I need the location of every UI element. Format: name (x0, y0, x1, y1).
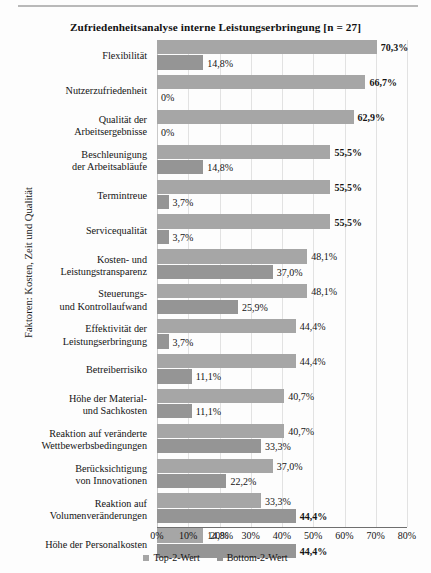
bar-top2[interactable] (157, 180, 330, 194)
legend-item[interactable]: Top-2-Wert (143, 552, 199, 563)
bar-group-bottom2: 0% (157, 90, 407, 104)
bar-top2[interactable] (157, 389, 284, 403)
bar-bottom2[interactable] (157, 300, 238, 314)
bar-top2[interactable] (157, 249, 307, 263)
bar-row: 48,1%25,9% (157, 284, 407, 317)
category-label-line: der Arbeitsabläufe (72, 161, 147, 173)
bar-bottom2[interactable] (157, 265, 273, 279)
bar-value-label: 33,3% (261, 441, 291, 452)
bar-bottom2[interactable] (157, 474, 226, 488)
category-label-line: Reaktion auf veränderte (49, 428, 147, 440)
bar-row: 44,4%11,1% (157, 354, 407, 387)
category-label: Reaktion auf veränderteWettbewerbsbeding… (18, 424, 152, 457)
bar-row: 55,5%14,8% (157, 145, 407, 178)
bar-row: 44,4%3,7% (157, 319, 407, 352)
page-top-rule (18, 5, 418, 7)
category-label: Höhe der Material-und Sachkosten (18, 389, 152, 422)
x-tick-label: 30% (242, 530, 260, 541)
bar-group-top2: 62,9% (157, 110, 407, 124)
bar-group-bottom2: 11,1% (157, 404, 407, 418)
bar-top2[interactable] (157, 424, 284, 438)
category-label-line: Qualität der (99, 114, 147, 126)
bar-group-top2: 40,7% (157, 424, 407, 438)
category-label: Reaktion aufVolumenveränderungen (18, 493, 152, 526)
x-tick-label: 80% (398, 530, 416, 541)
bar-top2[interactable] (157, 75, 365, 89)
category-label-line: Berücksichtigung (75, 463, 147, 475)
bar-value-label: 44,4% (296, 321, 326, 332)
legend-label: Bottom-2-Wert (227, 552, 288, 563)
bar-bottom2[interactable] (157, 230, 169, 244)
category-label-line: Höhe der Material- (69, 393, 147, 405)
chart-legend: Top-2-WertBottom-2-Wert (0, 552, 431, 563)
bar-group-bottom2: 11,1% (157, 369, 407, 383)
bar-bottom2[interactable] (157, 439, 261, 453)
category-label: Betreiberrisiko (18, 354, 152, 387)
category-label-line: Termintreue (97, 190, 147, 202)
bar-value-label: 40,7% (284, 425, 314, 436)
bar-top2[interactable] (157, 110, 354, 124)
category-label-line: Reaktion auf (95, 498, 147, 510)
bar-value-label: 44,4% (296, 356, 326, 367)
x-tick-label: 20% (210, 530, 228, 541)
category-label-line: Wettbewerbsbedingungen (41, 440, 147, 452)
gridline-80 (407, 40, 408, 527)
x-axis-ticks: 0%10%20%30%40%50%60%70%80% (157, 530, 407, 544)
bar-row: 70,3%14,8% (157, 40, 407, 73)
bar-bottom2[interactable] (157, 404, 192, 418)
bar-top2[interactable] (157, 214, 330, 228)
bar-value-label: 70,3% (377, 42, 409, 53)
category-label-line: Steuerungs- (98, 288, 147, 300)
bar-top2[interactable] (157, 40, 377, 54)
chart-page: Zufriedenheitsanalyse interne Leistungse… (0, 0, 431, 573)
bar-value-label: 44,4% (296, 510, 328, 521)
category-label-line: Nutzerzufriedenheit (66, 85, 147, 97)
bar-value-label: 55,5% (330, 146, 362, 157)
bar-value-label: 14,8% (203, 57, 233, 68)
bar-top2[interactable] (157, 493, 261, 507)
category-label-line: Effektivität der (85, 323, 147, 335)
bar-top2[interactable] (157, 284, 307, 298)
x-tick-label: 70% (367, 530, 385, 541)
bar-row: 40,7%11,1% (157, 389, 407, 422)
plot-area: 70,3%14,8%66,7%0%62,9%0%55,5%14,8%55,5%3… (157, 40, 407, 527)
bar-bottom2[interactable] (157, 195, 169, 209)
legend-item[interactable]: Bottom-2-Wert (217, 552, 288, 563)
bar-top2[interactable] (157, 459, 273, 473)
bar-rows: 70,3%14,8%66,7%0%62,9%0%55,5%14,8%55,5%3… (157, 40, 407, 563)
bar-bottom2[interactable] (157, 334, 169, 348)
category-label: Nutzerzufriedenheit (18, 75, 152, 108)
category-label-line: Betreiberrisiko (86, 364, 147, 376)
bar-bottom2[interactable] (157, 55, 203, 69)
category-label-line: Leistungstransparenz (60, 266, 147, 278)
bar-group-bottom2: 14,8% (157, 160, 407, 174)
legend-swatch-icon (217, 555, 223, 561)
bar-row: 66,7%0% (157, 75, 407, 108)
bar-top2[interactable] (157, 354, 296, 368)
bar-group-bottom2: 37,0% (157, 265, 407, 279)
bar-bottom2[interactable] (157, 509, 296, 523)
category-label: Flexibilität (18, 40, 152, 73)
bar-value-label: 55,5% (330, 216, 362, 227)
bar-bottom2[interactable] (157, 160, 203, 174)
category-label-column: FlexibilitätNutzerzufriedenheitQualität … (18, 40, 152, 563)
bar-group-top2: 66,7% (157, 75, 407, 89)
bar-top2[interactable] (157, 319, 296, 333)
chart-title: Zufriedenheitsanalyse interne Leistungse… (0, 21, 431, 33)
category-label-line: von Innovationen (75, 475, 147, 487)
category-label-line: Kosten- und (97, 254, 147, 266)
bar-value-label: 3,7% (169, 197, 194, 208)
category-label: Kosten- undLeistungstransparenz (18, 249, 152, 282)
category-label: Beschleunigungder Arbeitsabläufe (18, 145, 152, 178)
bar-group-bottom2: 3,7% (157, 230, 407, 244)
x-tick-label: 0% (150, 530, 163, 541)
bar-top2[interactable] (157, 145, 330, 159)
bar-group-top2: 48,1% (157, 249, 407, 263)
bar-bottom2[interactable] (157, 369, 192, 383)
bar-value-label: 3,7% (169, 231, 194, 242)
category-label-line: Volumenveränderungen (50, 510, 147, 522)
category-label-line: und Kontrollaufwand (60, 301, 147, 313)
bar-group-top2: 44,4% (157, 354, 407, 368)
x-tick-label: 10% (179, 530, 197, 541)
bar-row: 55,5%3,7% (157, 214, 407, 247)
